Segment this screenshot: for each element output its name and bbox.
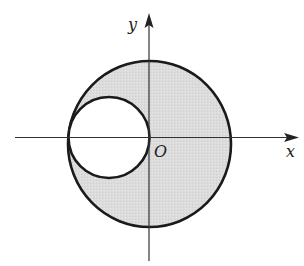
coordinate-diagram: y x O: [0, 0, 304, 266]
y-axis-label: y: [127, 15, 138, 34]
x-axis-label: x: [286, 142, 295, 161]
origin-label: O: [154, 142, 167, 161]
